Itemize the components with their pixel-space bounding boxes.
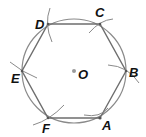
compass-arcs [10,8,139,125]
vertex-point-b [125,70,128,73]
vertex-point-c [99,23,102,26]
center-point [72,69,76,73]
label-vertex-e: E [11,71,20,86]
vertex-point-d [47,23,50,26]
hexagon-construction-diagram: O A B C D E F [0,0,146,137]
label-vertex-d: D [35,17,45,32]
label-vertex-b: B [129,65,138,80]
label-vertex-c: C [95,5,105,20]
label-vertex-a: A [101,118,111,133]
label-center-o: O [78,67,88,82]
vertex-point-f [47,117,50,120]
vertex-point-e [21,70,24,73]
label-vertex-f: F [42,121,51,136]
